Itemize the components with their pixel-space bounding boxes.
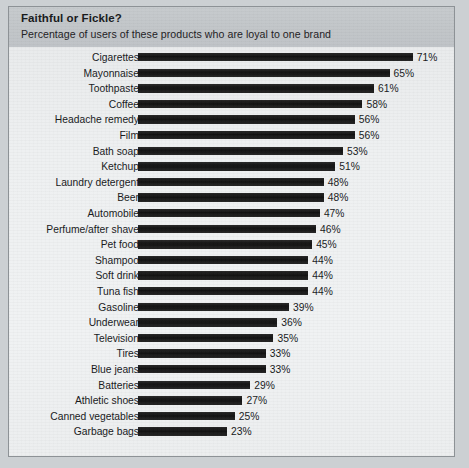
- bar-value-label: 36%: [281, 316, 302, 329]
- bar-category-label: Laundry detergent: [8, 176, 139, 189]
- bar: [138, 69, 390, 77]
- bar-row: Coffee58%: [9, 98, 454, 114]
- bar-value-label: 51%: [339, 160, 360, 173]
- bar-value-label: 44%: [312, 269, 333, 282]
- bar-category-label: Mayonnaise: [8, 67, 139, 80]
- bar: [138, 412, 235, 420]
- bar-row: Tires33%: [9, 347, 454, 363]
- bar-value-label: 56%: [359, 113, 380, 126]
- bar: [138, 427, 227, 435]
- chart-plot-area: Cigarettes71%Mayonnaise65%Toothpaste61%C…: [9, 47, 454, 456]
- bar-row: Headache remedy56%: [9, 113, 454, 129]
- bar: [138, 225, 316, 233]
- bar-value-label: 56%: [359, 129, 380, 142]
- bar-category-label: Gasoline: [8, 301, 139, 314]
- bar-value-label: 39%: [293, 301, 314, 314]
- bar: [138, 193, 324, 201]
- bar: [138, 396, 242, 404]
- chart-header: Faithful or Fickle? Percentage of users …: [9, 7, 454, 47]
- bar: [138, 271, 308, 279]
- bar-category-label: Bath soap: [8, 145, 139, 158]
- bar-category-label: Underwear: [8, 316, 139, 329]
- page-title: Faithful or Fickle?: [21, 12, 122, 24]
- bar-value-label: 65%: [394, 67, 415, 80]
- bar-row: Soft drink44%: [9, 269, 454, 285]
- bar-value-label: 25%: [239, 410, 260, 423]
- chart-figure: Faithful or Fickle? Percentage of users …: [8, 6, 455, 457]
- bar-row: Laundry detergent48%: [9, 176, 454, 192]
- bar: [138, 256, 308, 264]
- bar-value-label: 44%: [312, 254, 333, 267]
- bar-row: Bath soap53%: [9, 145, 454, 161]
- bar-category-label: Cigarettes: [8, 51, 139, 64]
- bar-category-label: Automobile: [8, 207, 139, 220]
- bar-category-label: Garbage bags: [8, 425, 139, 438]
- bar-category-label: Blue jeans: [8, 363, 139, 376]
- bar-value-label: 27%: [246, 394, 267, 407]
- bar-value-label: 23%: [231, 425, 252, 438]
- bar: [138, 115, 355, 123]
- bar-row: Gasoline39%: [9, 301, 454, 317]
- bar-row: Tuna fish44%: [9, 285, 454, 301]
- bar-value-label: 71%: [417, 51, 438, 64]
- bar-row: Mayonnaise65%: [9, 67, 454, 83]
- bar-value-label: 61%: [378, 82, 399, 95]
- bar-category-label: Soft drink: [8, 269, 139, 282]
- bar: [138, 53, 413, 61]
- bar-row: Blue jeans33%: [9, 363, 454, 379]
- bar-category-label: Perfume/after shave: [8, 223, 139, 236]
- bar-category-label: Shampoo: [8, 254, 139, 267]
- bar-value-label: 29%: [254, 379, 275, 392]
- bar: [138, 209, 320, 217]
- bar-value-label: 46%: [320, 223, 341, 236]
- bar-category-label: Film: [8, 129, 139, 142]
- bar-value-label: 44%: [312, 285, 333, 298]
- bar-category-label: Coffee: [8, 98, 139, 111]
- bar: [138, 84, 374, 92]
- bar-row: Beer48%: [9, 191, 454, 207]
- bar-row: Shampoo44%: [9, 254, 454, 270]
- bar: [138, 381, 250, 389]
- bar-category-label: Batteries: [8, 379, 139, 392]
- bar-value-label: 48%: [328, 191, 349, 204]
- bar-value-label: 58%: [366, 98, 387, 111]
- bar-row: Television35%: [9, 332, 454, 348]
- bar: [138, 100, 362, 108]
- bar-category-label: Canned vegetables: [8, 410, 139, 423]
- chart-subtitle: Percentage of users of these products wh…: [21, 28, 331, 40]
- bar-category-label: Tuna fish: [8, 285, 139, 298]
- bar-category-label: Headache remedy: [8, 113, 139, 126]
- bar-row: Automobile47%: [9, 207, 454, 223]
- bar: [138, 240, 312, 248]
- bar-row: Garbage bags23%: [9, 425, 454, 441]
- bar-value-label: 33%: [270, 347, 291, 360]
- bar-category-label: Athletic shoes: [8, 394, 139, 407]
- bar: [138, 349, 266, 357]
- bar-category-label: Tires: [8, 347, 139, 360]
- bar-row: Canned vegetables25%: [9, 410, 454, 426]
- bar-category-label: Television: [8, 332, 139, 345]
- bar-value-label: 45%: [316, 238, 337, 251]
- bar-row: Athletic shoes27%: [9, 394, 454, 410]
- bar: [138, 287, 308, 295]
- bar-value-label: 35%: [277, 332, 298, 345]
- bar-row: Cigarettes71%: [9, 51, 454, 67]
- bar-row: Toothpaste61%: [9, 82, 454, 98]
- bar: [138, 162, 335, 170]
- bar-row: Pet food45%: [9, 238, 454, 254]
- bar-row: Perfume/after shave46%: [9, 223, 454, 239]
- bar-category-label: Ketchup: [8, 160, 139, 173]
- bar-value-label: 33%: [270, 363, 291, 376]
- bar-row: Batteries29%: [9, 379, 454, 395]
- bar: [138, 147, 343, 155]
- bar: [138, 334, 273, 342]
- bar-category-label: Toothpaste: [8, 82, 139, 95]
- bar-value-label: 48%: [328, 176, 349, 189]
- bar-value-label: 47%: [324, 207, 345, 220]
- bar-category-label: Pet food: [8, 238, 139, 251]
- bar-row: Ketchup51%: [9, 160, 454, 176]
- bar: [138, 318, 277, 326]
- bar-row: Film56%: [9, 129, 454, 145]
- bar-value-label: 53%: [347, 145, 368, 158]
- bar-category-label: Beer: [8, 191, 139, 204]
